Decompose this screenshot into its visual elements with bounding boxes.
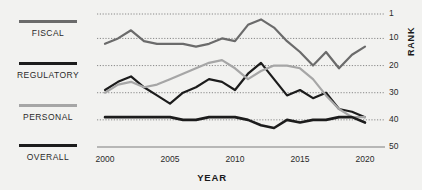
data-series-group bbox=[105, 19, 365, 128]
rank-axis-title: RANK bbox=[406, 27, 416, 56]
legend-label-overall: OVERALL bbox=[27, 152, 69, 162]
legend-label-regulatory: REGULATORY bbox=[17, 70, 79, 80]
chart-legend: FISCAL REGULATORY PERSONAL OVERALL bbox=[0, 0, 96, 190]
legend-item-personal: PERSONAL bbox=[0, 104, 96, 122]
series-line-regulatory bbox=[105, 63, 365, 117]
rank-tick-40: 40 bbox=[389, 115, 398, 124]
legend-swatch-personal bbox=[19, 104, 77, 107]
legend-item-overall: OVERALL bbox=[0, 144, 96, 162]
legend-label-personal: PERSONAL bbox=[23, 112, 73, 122]
rank-tick-50: 50 bbox=[389, 142, 398, 151]
gridlines bbox=[97, 14, 385, 147]
legend-swatch-overall bbox=[19, 144, 77, 147]
year-tick-2005: 2005 bbox=[150, 155, 190, 164]
rank-tick-20: 20 bbox=[389, 61, 398, 70]
rank-tick-1: 1 bbox=[389, 9, 394, 18]
legend-item-regulatory: REGULATORY bbox=[0, 62, 96, 80]
legend-label-fiscal: FISCAL bbox=[32, 28, 64, 38]
year-tick-2010: 2010 bbox=[215, 155, 255, 164]
rank-tick-30: 30 bbox=[389, 88, 398, 97]
rank-tick-10: 10 bbox=[389, 33, 398, 42]
series-line-overall bbox=[105, 117, 365, 128]
legend-item-fiscal: FISCAL bbox=[0, 20, 96, 38]
year-tick-2015: 2015 bbox=[280, 155, 320, 164]
legend-swatch-fiscal bbox=[19, 20, 77, 23]
series-line-personal bbox=[105, 60, 365, 117]
chart-figure: FISCAL REGULATORY PERSONAL OVERALL 11020… bbox=[0, 0, 422, 190]
legend-swatch-regulatory bbox=[19, 62, 77, 65]
year-axis-title: YEAR bbox=[197, 172, 227, 183]
series-line-fiscal bbox=[105, 19, 365, 68]
year-tick-2000: 2000 bbox=[85, 155, 125, 164]
year-tick-2020: 2020 bbox=[345, 155, 385, 164]
